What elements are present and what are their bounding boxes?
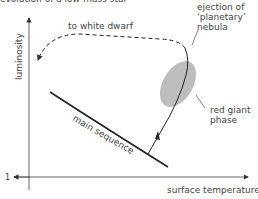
hr-diagram: luminosity surface temperature 1 to whit… — [0, 0, 258, 199]
red-giant-region — [153, 55, 204, 113]
origin-tick-label: 1 — [5, 173, 10, 182]
main-sequence-label: main sequence — [71, 113, 136, 156]
track-arrow-icon — [155, 131, 160, 140]
ejection-label-2: ‘planetary’ — [197, 12, 246, 22]
main-sequence-line — [50, 92, 168, 167]
white-dwarf-track — [38, 34, 185, 60]
red-giant-label-1: red giant — [210, 105, 251, 115]
red-giant-label-2: phase — [210, 115, 238, 125]
nebula-leader — [192, 30, 198, 45]
white-dwarf-label: to white dwarf — [68, 21, 134, 31]
x-axis-label: surface temperature — [167, 185, 258, 195]
ejection-label-1: ejection of — [197, 2, 245, 12]
red-giant-leader — [196, 95, 205, 108]
y-axis-label: luminosity — [14, 33, 24, 80]
ejection-label-3: nebula — [197, 22, 228, 32]
